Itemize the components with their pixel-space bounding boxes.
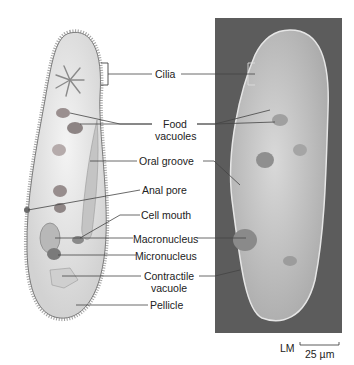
label-food-vacuoles-line2: vacuoles	[155, 130, 195, 142]
scale-method: LM	[280, 342, 295, 354]
label-oral-groove: Oral groove	[139, 155, 194, 167]
label-cell-mouth: Cell mouth	[141, 209, 191, 221]
label-pellicle: Pellicle	[150, 299, 183, 311]
label-cilia: Cilia	[155, 68, 175, 80]
paramecium-micrograph	[215, 18, 342, 333]
label-food-vacuoles: Food vacuoles	[155, 118, 195, 142]
scale-length: 25 µm	[305, 348, 334, 360]
label-contractile-vacuole-line2: vacuole	[141, 282, 197, 294]
paramecium-drawing	[24, 32, 106, 318]
label-micronucleus: Micronucleus	[135, 250, 197, 262]
label-macronucleus: Macronucleus	[133, 233, 198, 245]
label-contractile-vacuole-line1: Contractile	[141, 270, 197, 282]
label-anal-pore: Anal pore	[142, 184, 187, 196]
label-food-vacuoles-line1: Food	[155, 118, 195, 130]
label-contractile-vacuole: Contractile vacuole	[141, 270, 197, 294]
